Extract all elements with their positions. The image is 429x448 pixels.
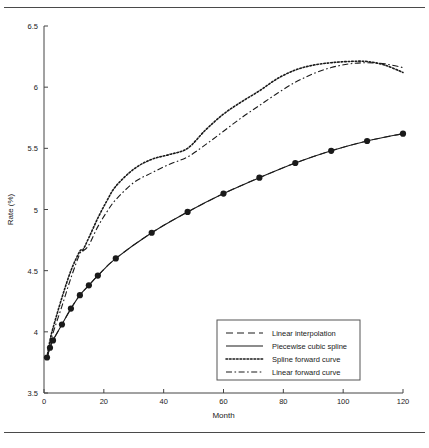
chart-figure: 020406080100120 3.544.555.566.5 Month Ra…: [0, 12, 429, 427]
figure-page: 020406080100120 3.544.555.566.5 Month Ra…: [0, 0, 429, 448]
series-linear-forward-curve: [47, 63, 403, 358]
data-point-marker: [113, 255, 119, 261]
x-tick-label: 60: [219, 397, 227, 406]
x-axis-label: Month: [212, 411, 234, 420]
x-tick-label: 20: [100, 397, 108, 406]
y-axis-label: Rate (%): [6, 193, 15, 225]
data-point-marker: [328, 148, 334, 154]
series-spline-forward-curve: [47, 61, 403, 357]
data-point-marker: [364, 138, 370, 144]
x-tick-label: 100: [337, 397, 350, 406]
data-series-layer: [44, 61, 406, 360]
x-tick-label: 80: [279, 397, 287, 406]
data-point-marker: [185, 209, 191, 215]
x-axis-ticks: 020406080100120: [42, 389, 409, 406]
chart-legend: Linear interpolationPiecewise cubic spli…: [217, 320, 360, 380]
data-point-marker: [400, 131, 406, 137]
top-rule: [4, 7, 425, 8]
data-point-marker: [68, 305, 74, 311]
y-tick-label: 5.5: [28, 144, 38, 153]
legend-label: Spline forward curve: [272, 355, 340, 364]
y-tick-label: 4: [34, 328, 38, 337]
series-line: [47, 63, 403, 358]
y-tick-label: 3.5: [28, 389, 38, 398]
legend-label: Linear interpolation: [272, 329, 336, 338]
bottom-rule: [4, 432, 425, 433]
legend-label: Piecewise cubic spline: [272, 342, 347, 351]
x-tick-label: 120: [397, 397, 410, 406]
data-point-marker: [77, 292, 83, 298]
legend-label: Linear forward curve: [272, 368, 340, 377]
y-tick-label: 4.5: [28, 267, 38, 276]
data-point-marker: [149, 230, 155, 236]
y-tick-label: 6: [34, 83, 38, 92]
data-point-marker: [220, 191, 226, 197]
y-tick-label: 6.5: [28, 22, 38, 31]
data-point-marker: [95, 272, 101, 278]
x-tick-label: 40: [159, 397, 167, 406]
data-point-marker: [59, 321, 65, 327]
y-tick-label: 5: [34, 206, 38, 215]
data-point-marker: [256, 175, 262, 181]
series-line: [47, 61, 403, 357]
y-axis-ticks: 3.544.555.566.5: [28, 22, 48, 398]
rate-curve-chart: 020406080100120 3.544.555.566.5 Month Ra…: [0, 12, 429, 427]
data-point-marker: [86, 282, 92, 288]
x-tick-label: 0: [42, 397, 46, 406]
data-point-marker: [292, 160, 298, 166]
